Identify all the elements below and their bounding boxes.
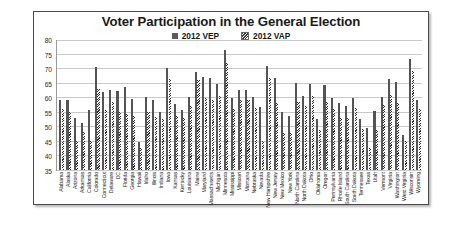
bar-group: [372, 40, 379, 170]
bar-group: [329, 40, 336, 170]
bar-2012-vap[interactable]: [69, 112, 71, 170]
bar-group: [251, 40, 258, 170]
bar-2012-vap[interactable]: [247, 100, 249, 170]
bar-2012-vap[interactable]: [140, 148, 142, 170]
bar-2012-vap[interactable]: [126, 114, 128, 170]
bar-2012-vap[interactable]: [290, 133, 292, 170]
bar-2012-vap[interactable]: [390, 95, 392, 170]
x-axis-tick-label: DC: [115, 172, 121, 179]
bar-2012-vap[interactable]: [383, 105, 385, 171]
bar-2012-vap[interactable]: [205, 98, 207, 170]
bar-2012-vap[interactable]: [347, 118, 349, 170]
bar-2012-vap[interactable]: [90, 141, 92, 170]
x-axis-tick: Wyoming: [415, 172, 422, 228]
x-axis-tick-label: Arkansas: [79, 172, 85, 193]
legend-item-vep[interactable]: 2012 VEP: [172, 31, 219, 41]
bar-2012-vap[interactable]: [412, 71, 414, 170]
bar-2012-vap[interactable]: [312, 96, 314, 170]
bar-2012-vap[interactable]: [162, 119, 164, 170]
bar-2012-vap[interactable]: [269, 78, 271, 170]
bar-2012-vap[interactable]: [97, 89, 99, 171]
x-axis-tick-label: Idaho: [143, 172, 149, 185]
bar-2012-vap[interactable]: [305, 106, 307, 170]
bar-2012-vap[interactable]: [176, 116, 178, 170]
bar-group: [308, 40, 315, 170]
bar-group: [379, 40, 386, 170]
bar-2012-vap[interactable]: [112, 102, 114, 170]
x-axis-tick: Arizona: [71, 172, 78, 228]
x-axis-tick: New Mexico: [279, 172, 286, 228]
bar-2012-vap[interactable]: [119, 112, 121, 171]
bar-group: [137, 40, 144, 170]
bar-2012-vap[interactable]: [183, 118, 185, 170]
x-axis-tick-label: Pennsylvania: [330, 172, 336, 202]
x-axis-tick-label: Michigan: [215, 172, 221, 192]
bar-2012-vap[interactable]: [197, 80, 199, 170]
bar-2012-vap[interactable]: [276, 103, 278, 170]
bar-group: [301, 40, 308, 170]
bar-2012-vap[interactable]: [147, 112, 149, 171]
x-axis-tick-label: Ohio: [308, 172, 314, 183]
x-axis-tick: Oregon: [322, 172, 329, 228]
x-axis-tick-label: New Mexico: [279, 172, 285, 199]
bar-2012-vap[interactable]: [76, 141, 78, 170]
x-axis-tick: Alabama: [57, 172, 64, 228]
bar-group: [336, 40, 343, 170]
x-axis-tick: New York: [286, 172, 293, 228]
x-axis-tick-label: Wisconsin: [408, 172, 414, 195]
bar-group: [79, 40, 86, 170]
bar-2012-vap[interactable]: [362, 129, 364, 170]
bar-2012-vap[interactable]: [255, 108, 257, 170]
bar-2012-vap[interactable]: [155, 117, 157, 170]
chart-legend: 2012 VEP 2012 VAP: [34, 31, 428, 41]
bar-group: [94, 40, 101, 170]
x-axis-tick-label: Maine: [194, 172, 200, 186]
x-axis-tick-label: Louisiana: [186, 172, 192, 193]
bar-2012-vap[interactable]: [212, 100, 214, 170]
legend-item-vap[interactable]: 2012 VAP: [241, 31, 290, 41]
bar-2012-vap[interactable]: [355, 108, 357, 170]
bar-2012-vap[interactable]: [340, 118, 342, 170]
bar-2012-vap[interactable]: [419, 109, 421, 170]
bar-2012-vap[interactable]: [397, 103, 399, 170]
bar-group: [265, 40, 272, 170]
bar-2012-vap[interactable]: [319, 130, 321, 170]
bar-2012-vap[interactable]: [233, 109, 235, 170]
bar-2012-vap[interactable]: [83, 132, 85, 170]
x-axis-tick-label: Montana: [244, 172, 250, 192]
bar-2012-vap[interactable]: [240, 100, 242, 170]
bar-2012-vap[interactable]: [62, 109, 64, 170]
bar-2012-vap[interactable]: [326, 102, 328, 170]
bar-2012-vap[interactable]: [376, 130, 378, 170]
bar-2012-vap[interactable]: [190, 106, 192, 170]
x-axis-tick-label: Iowa: [165, 172, 171, 183]
bar-group: [229, 40, 236, 170]
bar-2012-vap[interactable]: [133, 116, 135, 170]
y-axis: 80757065605550454035: [39, 40, 54, 171]
bar-group: [108, 40, 115, 170]
bar-2012-vap[interactable]: [262, 141, 264, 170]
x-axis-tick: Pennsylvania: [329, 172, 336, 228]
bar-group: [394, 40, 401, 170]
x-axis-tick: Delaware: [107, 172, 114, 228]
bar-group: [401, 40, 408, 170]
bar-2012-vap[interactable]: [405, 141, 407, 170]
bar-2012-vap[interactable]: [219, 96, 221, 170]
x-axis-tick: Indiana: [157, 172, 164, 228]
bar-2012-vap[interactable]: [226, 63, 228, 170]
bar-group: [158, 40, 165, 170]
bar-group: [72, 40, 79, 170]
x-axis-tick-label: Washington: [394, 172, 400, 198]
y-axis-tick-label: 35: [45, 168, 52, 175]
bar-2012-vap[interactable]: [105, 110, 107, 170]
bar-2012-vap[interactable]: [333, 109, 335, 170]
x-axis-tick-label: California: [86, 172, 92, 193]
x-axis-tick: Vermont: [379, 172, 386, 228]
x-axis-tick: New Hampshire: [265, 172, 272, 228]
bar-2012-vap[interactable]: [283, 133, 285, 170]
bar-2012-vap[interactable]: [169, 79, 171, 170]
x-axis-tick-label: South Dakota: [351, 172, 357, 202]
bar-2012-vap[interactable]: [369, 148, 371, 170]
x-axis-tick: DC: [114, 172, 121, 228]
bar-2012-vap[interactable]: [297, 102, 299, 170]
